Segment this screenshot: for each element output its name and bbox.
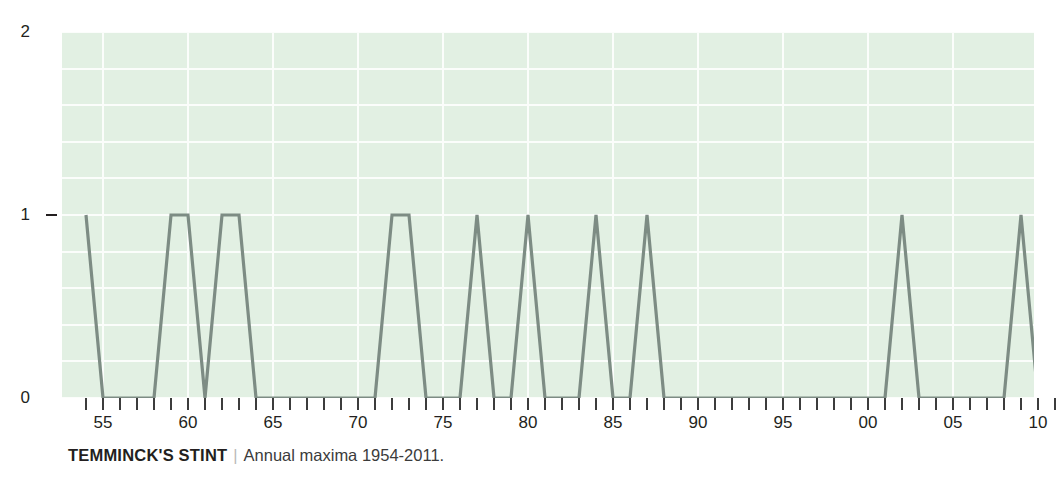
x-axis-tick [374,398,376,410]
x-axis-label: 95 [774,414,793,431]
x-axis-tick [136,398,138,410]
x-axis-tick [510,398,512,410]
x-axis-tick [391,398,393,410]
x-axis-label: 60 [179,414,198,431]
x-axis-tick [1020,398,1022,410]
x-axis-tick [187,398,189,410]
x-axis-tick [969,398,971,410]
y-axis-tick-1 [46,214,57,216]
x-axis-tick [119,398,121,410]
x-axis-label: 90 [689,414,708,431]
x-axis-tick [527,398,529,410]
y-axis-label-1: 1 [0,206,30,223]
caption-subtitle: Annual maxima 1954-2011. [244,446,445,464]
x-axis-tick [952,398,954,410]
x-axis-label: 70 [349,414,368,431]
x-axis-tick [153,398,155,410]
x-axis-tick [799,398,801,410]
x-axis-tick [340,398,342,410]
x-axis-tick [425,398,427,410]
x-axis-tick [289,398,291,410]
x-axis-tick [595,398,597,410]
x-axis-tick [986,398,988,410]
x-axis-tick [238,398,240,410]
x-axis-tick [850,398,852,410]
x-axis-tick [306,398,308,410]
caption: TEMMINCK'S STINT|Annual maxima 1954-2011… [68,446,444,466]
x-axis-tick [646,398,648,410]
x-axis-tick [935,398,937,410]
x-axis-tick [255,398,257,410]
x-axis-tick [1037,398,1039,410]
x-axis-tick [442,398,444,410]
x-axis-tick [629,398,631,410]
x-axis-tick [816,398,818,410]
x-axis-tick [272,398,274,410]
x-axis-tick [493,398,495,410]
x-axis-label: 00 [859,414,878,431]
caption-title: TEMMINCK'S STINT [68,446,227,464]
x-axis-label: 85 [604,414,623,431]
x-axis-tick [221,398,223,410]
x-axis-tick [102,398,104,410]
caption-separator: | [227,446,243,464]
x-axis-tick [697,398,699,410]
x-axis-tick [867,398,869,410]
x-axis-tick [782,398,784,410]
chart-figure: 2 1 0 556065707580859095000510 TEMMINCK'… [0,0,1064,490]
x-axis-tick [884,398,886,410]
x-axis-tick [663,398,665,410]
x-axis-label: 80 [519,414,538,431]
x-axis-tick [748,398,750,410]
series-line-annual-maxima [62,32,1034,398]
x-axis-tick [680,398,682,410]
x-axis-tick [323,398,325,410]
x-axis-tick [1054,398,1056,410]
x-axis-tick [85,398,87,410]
x-axis-tick [357,398,359,410]
x-axis [62,398,1034,412]
x-axis-tick [765,398,767,410]
x-axis-label: 75 [434,414,453,431]
x-axis-tick [578,398,580,410]
x-axis-label: 55 [94,414,113,431]
x-axis-tick [833,398,835,410]
y-axis-label-0: 0 [0,389,30,406]
x-axis-tick [1003,398,1005,410]
x-axis-label: 65 [264,414,283,431]
plot-area [62,32,1034,398]
x-axis-tick [714,398,716,410]
x-axis-tick [204,398,206,410]
x-axis-tick [459,398,461,410]
x-axis-tick [561,398,563,410]
x-axis-tick [408,398,410,410]
x-axis-tick [170,398,172,410]
x-axis-tick [918,398,920,410]
y-axis-label-2: 2 [0,23,30,40]
x-axis-tick [476,398,478,410]
x-axis-tick [901,398,903,410]
x-axis-tick [544,398,546,410]
x-axis-label: 05 [944,414,963,431]
x-axis-tick [731,398,733,410]
x-axis-tick [612,398,614,410]
x-axis-label: 10 [1029,414,1048,431]
